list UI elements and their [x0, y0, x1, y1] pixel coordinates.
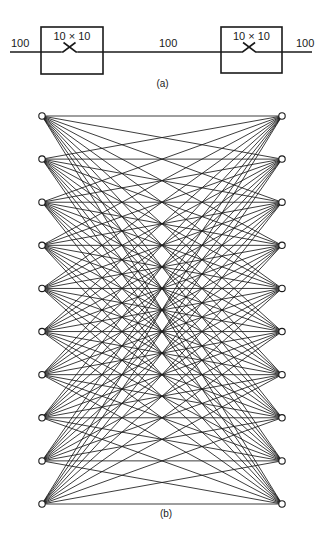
right-node [279, 328, 285, 334]
left-node [39, 501, 45, 507]
diagram-b-full-mesh-network: (b) [39, 113, 285, 519]
diagram-a-two-stage-switch: 10 × 1010 × 10 100 100 100 (a) [10, 27, 314, 89]
right-node [279, 458, 285, 464]
left-node [39, 458, 45, 464]
left-node [39, 285, 45, 291]
left-node [39, 328, 45, 334]
output-capacity-label: 100 [296, 37, 314, 49]
switch-box-1: 10 × 10 [41, 27, 103, 74]
caption-b: (b) [160, 508, 172, 519]
right-node [279, 285, 285, 291]
left-node [39, 113, 45, 119]
left-node [39, 242, 45, 248]
right-node [279, 501, 285, 507]
switch-size-label: 10 × 10 [233, 30, 270, 42]
left-node [39, 371, 45, 377]
mesh-edges [42, 116, 282, 504]
right-node [279, 156, 285, 162]
right-node [279, 415, 285, 421]
input-capacity-label: 100 [11, 37, 29, 49]
right-node [279, 199, 285, 205]
left-node [39, 156, 45, 162]
figure-canvas: 10 × 1010 × 10 100 100 100 (a) (b) [0, 0, 321, 542]
switch-box-2: 10 × 10 [221, 27, 282, 73]
link-capacity-label: 100 [159, 37, 177, 49]
right-node [279, 371, 285, 377]
left-node [39, 199, 45, 205]
switch-size-label: 10 × 10 [53, 30, 90, 42]
left-node [39, 415, 45, 421]
right-node [279, 242, 285, 248]
right-node [279, 113, 285, 119]
caption-a: (a) [156, 78, 168, 89]
